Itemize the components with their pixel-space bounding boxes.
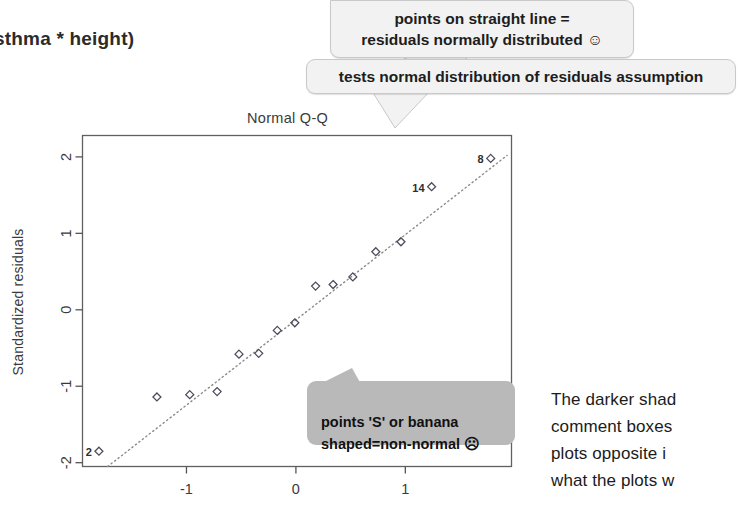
data-point — [487, 154, 495, 162]
x-tick-label: 1 — [401, 481, 409, 497]
y-tick-label: 2 — [59, 153, 75, 161]
y-tick-label: -1 — [59, 380, 75, 393]
y-tick-label: 1 — [59, 229, 75, 237]
chart-title: Normal Q-Q — [247, 110, 328, 126]
data-point — [235, 350, 243, 358]
data-point — [186, 391, 194, 399]
data-point — [291, 319, 299, 327]
x-tick-label: -1 — [180, 481, 193, 497]
data-point — [273, 326, 281, 334]
data-point — [428, 183, 436, 191]
x-tick-label: 0 — [292, 481, 300, 497]
data-point-label: 8 — [478, 153, 484, 165]
callout-s-or-banana-text: points 'S' or banana shaped=non-normal ☹ — [321, 414, 480, 452]
y-tick-label: -2 — [59, 456, 75, 469]
callout-tests-normality-text: tests normal distribution of residuals a… — [329, 67, 713, 87]
data-point — [255, 349, 263, 357]
callout-s-or-banana: points 'S' or banana shaped=non-normal ☹ — [307, 381, 515, 445]
callout-tests-normality: tests normal distribution of residuals a… — [306, 59, 736, 94]
data-point-label: 14 — [412, 182, 425, 194]
data-point — [329, 281, 337, 289]
y-axis-label: Standardized residuals — [10, 222, 26, 382]
callout-points-straight-line: points on straight line = residuals norm… — [330, 0, 634, 58]
formula-fragment-text: sthma * height) — [0, 28, 134, 50]
data-point — [213, 388, 221, 396]
data-point-label: 2 — [86, 446, 92, 458]
data-point — [372, 248, 380, 256]
data-point — [349, 273, 357, 281]
data-point — [397, 238, 405, 246]
data-point — [95, 447, 103, 455]
data-point — [153, 393, 161, 401]
body-copy-paragraph: The darker shad comment boxes plots oppo… — [551, 386, 738, 494]
callout-points-straight-line-text: points on straight line = residuals norm… — [351, 8, 613, 50]
y-tick-label: 0 — [59, 306, 75, 314]
callout-second-tail — [372, 91, 430, 128]
data-point — [312, 282, 320, 290]
